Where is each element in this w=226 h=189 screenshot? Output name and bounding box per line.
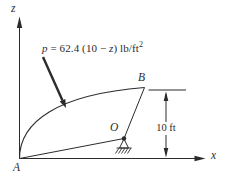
point-o-label: O <box>110 122 118 134</box>
equation-middle: = 62.4 (10 − <box>48 42 109 54</box>
support-hatching-icon <box>116 148 132 154</box>
dimension-label: 10 ft <box>154 122 178 135</box>
equation-tail: ) lb/ft <box>113 42 138 54</box>
dimension-arrowhead-top-icon <box>164 92 169 102</box>
dimension-arrowhead-bottom-icon <box>164 148 169 158</box>
equation-pointer-arrowhead-icon <box>60 99 66 108</box>
x-axis-arrowhead-icon <box>195 156 206 161</box>
point-b-label: B <box>138 72 145 84</box>
figure-linework <box>0 0 226 189</box>
pressure-equation-label: p = 62.4 (10 − z) lb/ft2 <box>42 43 143 54</box>
z-axis-label: z <box>11 3 15 15</box>
equation-exponent: 2 <box>139 40 143 49</box>
line-o-to-b <box>124 88 145 139</box>
x-axis-label: x <box>211 150 216 162</box>
line-a-to-o <box>20 139 125 159</box>
pressure-distribution-figure: p = 62.4 (10 − z) lb/ft2 z x A B O 10 ft <box>0 0 226 189</box>
point-a-label: A <box>13 162 20 174</box>
equation-pointer-arrow-shaft <box>43 57 63 101</box>
z-axis-arrowhead-icon <box>17 17 22 29</box>
